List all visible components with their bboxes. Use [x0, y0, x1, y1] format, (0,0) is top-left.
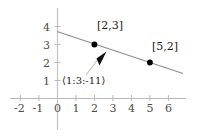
x-tick-label-6: 6 — [165, 103, 172, 114]
point-label-b: [5,2] — [152, 41, 178, 52]
y-tick-label-1: 1 — [43, 76, 50, 87]
x-tick-label-neg2: -2 — [14, 103, 25, 114]
data-point-marker — [147, 60, 153, 66]
direction-arrow-icon — [97, 52, 107, 66]
y-tick-label-4: 4 — [43, 22, 50, 33]
x-tick-label-2: 2 — [91, 103, 98, 114]
y-tick-label-3: 3 — [43, 40, 50, 51]
x-tick-label-1: 1 — [73, 103, 80, 114]
x-tick-label-5: 5 — [147, 103, 154, 114]
x-tick-label-4: 4 — [128, 103, 135, 114]
x-tick-label-3: 3 — [110, 103, 117, 114]
line-plot-figure: -2 -1 0 1 2 3 4 5 6 1 2 3 4 [2,3] [5,2] … — [0, 0, 197, 139]
x-tick-label-neg1: -1 — [33, 103, 44, 114]
x-tick-label-0: 0 — [54, 103, 61, 114]
point-label-a: [2,3] — [97, 20, 123, 31]
data-point-marker — [92, 42, 98, 48]
y-tick-label-2: 2 — [43, 58, 50, 69]
line-coordinates-label: ⟨1:3:-11⟩ — [62, 76, 105, 86]
